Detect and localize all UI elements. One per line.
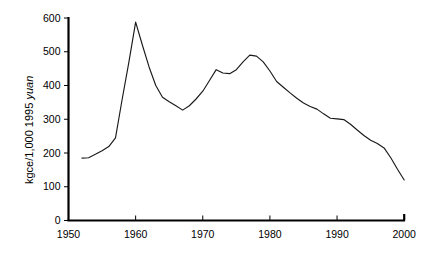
y-tick-label: 500 xyxy=(43,45,61,57)
y-tick-label: 300 xyxy=(43,113,61,125)
y-axis-title: kgce/1,000 1995 yuan xyxy=(23,76,35,184)
y-tick-label: 600 xyxy=(43,12,61,24)
y-tick-label: 0 xyxy=(55,214,61,226)
y-axis: 0100200300400500600 xyxy=(43,12,69,227)
data-series-line xyxy=(82,22,404,180)
line-chart: kgce/1,000 1995 yuan 0100200300400500600… xyxy=(0,0,445,259)
y-axis-title-italic: yuan xyxy=(23,76,35,101)
y-tick-label: 400 xyxy=(43,79,61,91)
x-tick-label: 1980 xyxy=(258,228,282,240)
y-axis-title-plain: kgce/1,000 1995 xyxy=(23,100,35,184)
y-tick-label: 100 xyxy=(43,180,61,192)
x-tick-label: 1960 xyxy=(124,228,148,240)
chart-container: kgce/1,000 1995 yuan 0100200300400500600… xyxy=(0,0,445,259)
x-tick-label: 1970 xyxy=(191,228,215,240)
y-axis-title-text: kgce/1,000 1995 yuan xyxy=(23,76,35,184)
x-tick-label: 1950 xyxy=(57,228,81,240)
x-tick-label: 1990 xyxy=(325,228,349,240)
y-tick-label: 200 xyxy=(43,147,61,159)
x-tick-label: 2000 xyxy=(393,228,417,240)
x-axis: 195019601970198019902000 xyxy=(57,216,416,240)
